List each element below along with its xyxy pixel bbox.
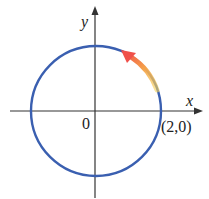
y-axis-label: y xyxy=(81,14,88,30)
y-axis-arrow-icon xyxy=(92,6,99,15)
x-axis-label: x xyxy=(186,93,193,109)
x-axis xyxy=(10,108,203,115)
motion-arrow-icon xyxy=(121,50,157,90)
x-axis-arrow-icon xyxy=(194,108,203,115)
y-axis xyxy=(92,6,99,198)
point-label: (2,0) xyxy=(161,119,192,135)
origin-label: 0 xyxy=(82,116,90,132)
diagram-canvas xyxy=(0,0,209,199)
